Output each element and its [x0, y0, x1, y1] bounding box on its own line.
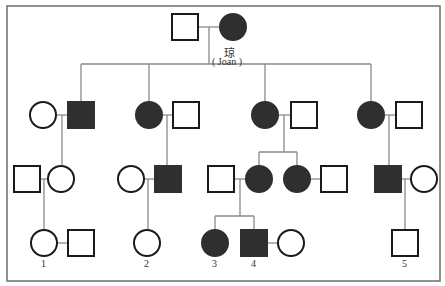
- unaffected-male-II-8: [396, 102, 422, 128]
- unaffected-male-IV-7: [392, 230, 418, 256]
- affected-female-I-2: [220, 14, 246, 40]
- proband-name-english: ( Joan ): [212, 56, 242, 67]
- affected-male-II-2: [68, 102, 94, 128]
- individual-number-4: 4: [251, 258, 256, 269]
- unaffected-female-III-3: [118, 166, 144, 192]
- affected-female-III-7: [284, 166, 310, 192]
- unaffected-female-III-2: [48, 166, 74, 192]
- affected-male-III-9: [375, 166, 401, 192]
- unaffected-male-III-5: [208, 166, 234, 192]
- unaffected-female-IV-3: [134, 230, 160, 256]
- affected-female-II-7: [358, 102, 384, 128]
- unaffected-female-IV-6: [278, 230, 304, 256]
- affected-male-IV-5: [241, 230, 267, 256]
- individual-number-2: 2: [144, 258, 149, 269]
- unaffected-male-II-6: [291, 102, 317, 128]
- pedigree-diagram: 琼 ( Joan ) 1 2 3 4 5: [0, 0, 445, 286]
- affected-male-III-4: [155, 166, 181, 192]
- individual-number-5: 5: [402, 258, 407, 269]
- individual-number-3: 3: [212, 258, 217, 269]
- affected-female-II-5: [252, 102, 278, 128]
- unaffected-male-IV-2: [68, 230, 94, 256]
- unaffected-male-II-4: [173, 102, 199, 128]
- affected-female-IV-4: [202, 230, 228, 256]
- unaffected-male-III-8: [321, 166, 347, 192]
- unaffected-female-II-1: [30, 102, 56, 128]
- individual-number-1: 1: [41, 258, 46, 269]
- unaffected-male-III-1: [14, 166, 40, 192]
- affected-female-II-3: [136, 102, 162, 128]
- affected-female-III-6: [246, 166, 272, 192]
- pedigree-canvas: [0, 0, 445, 286]
- unaffected-male-I-1: [172, 14, 198, 40]
- unaffected-female-IV-1: [31, 230, 57, 256]
- unaffected-female-III-10: [411, 166, 437, 192]
